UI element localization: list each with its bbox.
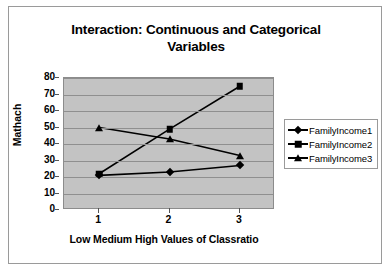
y-tick-label: 80 bbox=[44, 72, 55, 82]
gridline bbox=[64, 78, 273, 79]
y-tick-label: 50 bbox=[44, 122, 55, 132]
y-tick-mark bbox=[55, 209, 59, 210]
data-point-marker bbox=[166, 135, 174, 142]
x-tick-label: 3 bbox=[236, 213, 242, 225]
legend-item-label: FamilyIncome3 bbox=[309, 153, 372, 164]
data-point-marker bbox=[166, 126, 173, 133]
x-axis-ticks: 123 bbox=[63, 213, 274, 227]
gridline bbox=[64, 95, 273, 96]
y-tick-mark bbox=[55, 160, 59, 161]
gridline bbox=[64, 194, 273, 195]
y-tick-label: 60 bbox=[44, 105, 55, 115]
chart-legend: FamilyIncome1FamilyIncome2FamilyIncome3 bbox=[284, 119, 378, 169]
y-axis-ticks: 01020304050607080 bbox=[23, 77, 59, 209]
legend-item-label: FamilyIncome2 bbox=[309, 139, 372, 150]
data-point-marker bbox=[96, 170, 103, 177]
diamond-marker-icon bbox=[287, 124, 309, 136]
y-axis-title: Mathach bbox=[11, 104, 23, 147]
x-tick-mark bbox=[169, 208, 170, 213]
gridline bbox=[64, 177, 273, 178]
x-tick-label: 1 bbox=[95, 213, 101, 225]
y-tick-label: 70 bbox=[44, 89, 55, 99]
plot-area bbox=[63, 77, 274, 209]
plot-wrapper: Mathach 01020304050607080 123 Low Medium… bbox=[9, 7, 383, 265]
y-tick-mark bbox=[55, 143, 59, 144]
y-tick-mark bbox=[55, 193, 59, 194]
x-tick-label: 2 bbox=[166, 213, 172, 225]
gridline bbox=[64, 144, 273, 145]
y-tick-label: 10 bbox=[44, 188, 55, 198]
data-point-marker bbox=[236, 152, 244, 159]
square-marker-icon bbox=[287, 138, 309, 150]
chart-frame: Interaction: Continuous and Categorical … bbox=[8, 6, 382, 264]
gridline bbox=[64, 111, 273, 112]
legend-item[interactable]: FamilyIncome2 bbox=[287, 137, 375, 151]
y-tick-mark bbox=[55, 127, 59, 128]
legend-item[interactable]: FamilyIncome3 bbox=[287, 151, 375, 165]
legend-item[interactable]: FamilyIncome1 bbox=[287, 123, 375, 137]
y-tick-mark bbox=[55, 176, 59, 177]
y-tick-label: 40 bbox=[44, 138, 55, 148]
y-tick-label: 30 bbox=[44, 155, 55, 165]
legend-item-label: FamilyIncome1 bbox=[309, 125, 372, 136]
y-tick-label: 20 bbox=[44, 171, 55, 181]
data-point-marker bbox=[237, 83, 244, 90]
triangle-marker-icon bbox=[287, 152, 309, 164]
x-tick-mark bbox=[239, 208, 240, 213]
data-point-marker bbox=[95, 124, 103, 131]
y-tick-mark bbox=[55, 77, 59, 78]
x-axis-title: Low Medium High Values of Classratio bbox=[29, 233, 299, 245]
y-tick-mark bbox=[55, 110, 59, 111]
gridline bbox=[64, 161, 273, 162]
y-tick-mark bbox=[55, 94, 59, 95]
x-tick-mark bbox=[98, 208, 99, 213]
